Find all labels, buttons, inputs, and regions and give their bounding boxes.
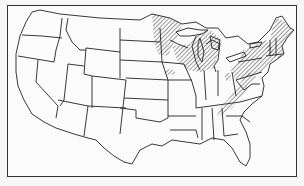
border-ut-wy-co xyxy=(68,64,126,108)
border-mt-wy xyxy=(86,48,120,52)
border-ok-tx xyxy=(120,108,168,122)
region-illinois-patch xyxy=(225,73,231,81)
region-new-york-pennsylvania xyxy=(230,40,276,80)
border-id-wy xyxy=(84,48,86,74)
border-or-ca xyxy=(18,56,54,62)
border-ne-ks xyxy=(124,78,168,100)
border-ca-nv xyxy=(36,60,58,118)
border-wa-or xyxy=(22,35,62,38)
border-nv-ut xyxy=(60,64,68,106)
border-id-mt xyxy=(66,18,86,50)
border-mo-ar-la xyxy=(168,116,198,138)
border-idaho-west xyxy=(54,18,62,62)
hatched-regions xyxy=(152,14,293,118)
us-map xyxy=(0,0,304,186)
border-sc-nc xyxy=(226,116,250,122)
